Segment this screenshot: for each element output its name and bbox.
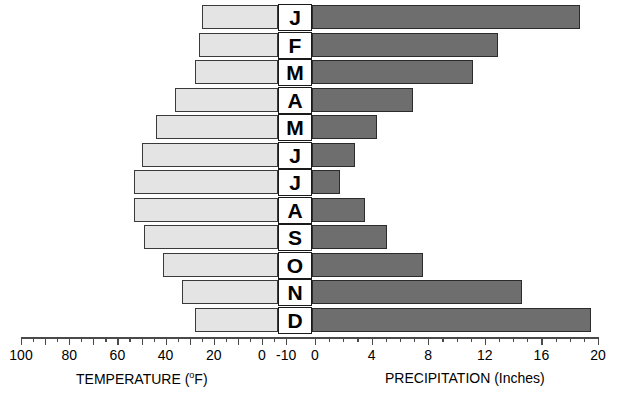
precipitation-bar <box>312 253 423 277</box>
month-label-o-9: O <box>278 252 312 279</box>
month-label-m-2: M <box>278 59 312 86</box>
axis-tick-minor <box>81 337 82 342</box>
precipitation-bar <box>312 308 591 332</box>
axis-tick-label: 100 <box>1 348 41 362</box>
axis-tick-minor <box>471 337 472 342</box>
axis-tick-minor <box>584 337 585 342</box>
axis-tick-major <box>238 337 239 345</box>
month-label-a-3: A <box>278 87 312 114</box>
axis-tick-minor <box>414 337 415 342</box>
axis-tick-label: 8 <box>408 348 448 362</box>
temperature-bar <box>134 170 278 194</box>
axis-tick-label: 0 <box>295 348 335 362</box>
temperature-bar <box>163 253 278 277</box>
month-label-m-4: M <box>278 114 312 141</box>
axis-tick-major <box>69 337 70 345</box>
axis-tick-minor <box>129 337 130 342</box>
temperature-bar <box>156 115 278 139</box>
month-label-j-0: J <box>278 4 312 31</box>
precipitation-bar <box>312 33 498 57</box>
axis-tick-major <box>21 337 22 345</box>
axis-tick-minor <box>442 337 443 342</box>
axis-tick-label: 16 <box>521 348 561 362</box>
axis-tick-major <box>45 337 46 345</box>
temperature-bar <box>195 60 278 84</box>
axis-tick-label: 20 <box>578 348 618 362</box>
axis-tick-minor <box>329 337 330 342</box>
axis-tick-major <box>485 337 486 345</box>
temperature-bar <box>175 88 278 112</box>
precipitation-bar <box>312 60 473 84</box>
axis-tick-major <box>372 337 373 345</box>
axis-tick-label: 40 <box>146 348 186 362</box>
temperature-bar <box>202 5 278 29</box>
precipitation-bar <box>312 198 365 222</box>
left-axis-title-text: TEMPERATURE <box>76 371 181 387</box>
month-label-n-10: N <box>278 279 312 306</box>
axis-tick-minor <box>400 337 401 342</box>
axis-tick-major <box>142 337 143 345</box>
axis-tick-major <box>214 337 215 345</box>
month-label-d-11: D <box>278 307 312 334</box>
precipitation-bar <box>312 88 413 112</box>
axis-tick-major <box>541 337 542 345</box>
axis-tick-minor <box>386 337 387 342</box>
temperature-bar <box>142 143 279 167</box>
month-label-j-5: J <box>278 142 312 169</box>
climate-chart: JFMAMJJASOND 100806040200-10048121620 TE… <box>0 0 623 400</box>
axis-tick-minor <box>457 337 458 342</box>
month-label-f-1: F <box>278 32 312 59</box>
temperature-bar <box>144 225 278 249</box>
axis-tick-minor <box>202 337 203 342</box>
month-label-s-8: S <box>278 224 312 251</box>
axis-tick-minor <box>226 337 227 342</box>
precipitation-bar <box>312 143 355 167</box>
left-axis-title: TEMPERATURE (oF) <box>76 371 208 386</box>
axis-tick-minor <box>178 337 179 342</box>
axis-tick-label: 20 <box>194 348 234 362</box>
axis-tick-minor <box>357 337 358 342</box>
axis-tick-label: 12 <box>465 348 505 362</box>
axis-tick-minor <box>274 337 275 342</box>
axis-tick-label: 4 <box>352 348 392 362</box>
axis-tick-minor <box>33 337 34 342</box>
axis-tick-minor <box>556 337 557 342</box>
axis-tick-major <box>315 337 316 345</box>
axis-tick-major <box>598 337 599 345</box>
axis-tick-major <box>190 337 191 345</box>
axis-tick-major <box>93 337 94 345</box>
temperature-bar <box>199 33 278 57</box>
precipitation-bar <box>312 280 522 304</box>
temperature-bar <box>134 198 278 222</box>
month-label-j-6: J <box>278 169 312 196</box>
axis-tick-minor <box>57 337 58 342</box>
temperature-bar <box>195 308 278 332</box>
axis-tick-major <box>262 337 263 345</box>
axis-tick-label: 60 <box>97 348 137 362</box>
right-axis-title: PRECIPITATION (Inches) <box>385 371 545 385</box>
month-label-a-7: A <box>278 197 312 224</box>
precipitation-bar <box>312 115 377 139</box>
axis-tick-minor <box>154 337 155 342</box>
axis-tick-minor <box>570 337 571 342</box>
axis-tick-minor <box>527 337 528 342</box>
axis-tick-minor <box>250 337 251 342</box>
precipitation-bar <box>312 170 340 194</box>
temperature-bar <box>182 280 278 304</box>
axis-tick-minor <box>513 337 514 342</box>
axis-tick-minor <box>105 337 106 342</box>
axis-tick-major <box>166 337 167 345</box>
axis-tick-label: 80 <box>49 348 89 362</box>
precipitation-bar <box>312 225 387 249</box>
axis-tick-minor <box>499 337 500 342</box>
axis-tick-minor <box>343 337 344 342</box>
axis-tick-major <box>286 337 287 345</box>
axis-tick-major <box>117 337 118 345</box>
axis-tick-major <box>428 337 429 345</box>
precipitation-bar <box>312 5 580 29</box>
